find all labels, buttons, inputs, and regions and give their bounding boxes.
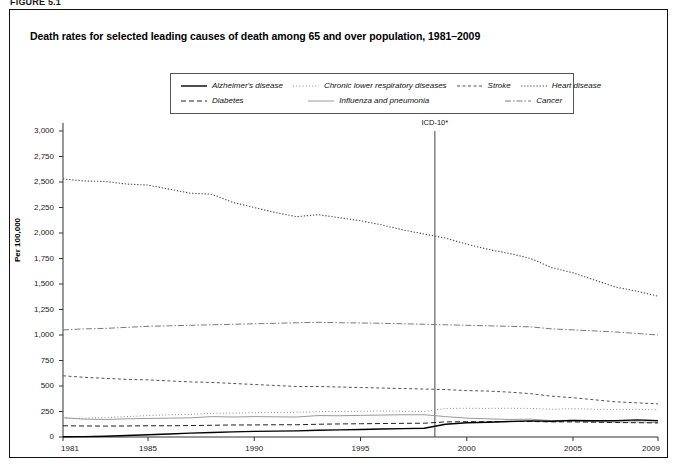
legend-line-swatch-cancer [505,97,531,105]
legend-row: Alzheimer's diseaseChronic lower respira… [177,78,567,93]
legend-row: DiabetesInfluenza and pneumoniaCancer [177,93,567,108]
legend-label-clrd: Chronic lower respiratory diseases [324,81,447,90]
figure-container: Death rates for selected leading causes … [9,9,668,458]
legend-item-stroke[interactable]: Stroke [457,81,511,90]
legend-line-swatch-clrd [293,82,319,90]
legend-label-cancer: Cancer [536,96,562,105]
legend-label-influenza: Influenza and pneumonia [339,96,429,105]
legend-line-swatch-diabetes [181,97,207,105]
legend-line-swatch-stroke [457,82,483,90]
legend-line-swatch-alzheimers [181,82,207,90]
legend-item-heart[interactable]: Heart disease [521,81,601,90]
figure-number: FIGURE 5.1 [10,0,61,7]
legend-item-clrd[interactable]: Chronic lower respiratory diseases [293,81,447,90]
chart-title: Death rates for selected leading causes … [30,30,650,42]
legend-label-heart: Heart disease [552,81,601,90]
legend-label-alzheimers: Alzheimer's disease [212,81,283,90]
legend-item-cancer[interactable]: Cancer [505,96,567,105]
legend-label-stroke: Stroke [488,81,511,90]
legend-item-alzheimers[interactable]: Alzheimer's disease [181,81,283,90]
legend-item-diabetes[interactable]: Diabetes [181,96,298,105]
chart-legend: Alzheimer's diseaseChronic lower respira… [170,73,574,114]
legend-item-influenza[interactable]: Influenza and pneumonia [308,96,495,105]
legend-line-swatch-heart [521,82,547,90]
legend-line-swatch-influenza [308,97,334,105]
legend-label-diabetes: Diabetes [212,96,244,105]
